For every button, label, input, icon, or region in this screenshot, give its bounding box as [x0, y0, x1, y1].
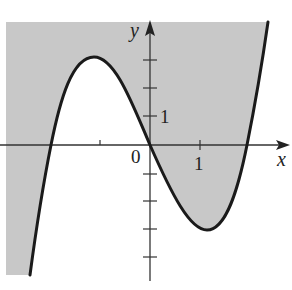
x-tick-label-1: 1 — [194, 153, 204, 174]
y-axis-label: y — [128, 19, 139, 42]
origin-label: 0 — [131, 146, 141, 167]
x-axis-label: x — [276, 148, 286, 170]
graph-canvas: y x 0 1 1 — [0, 0, 292, 290]
y-tick-label-1: 1 — [160, 106, 170, 127]
